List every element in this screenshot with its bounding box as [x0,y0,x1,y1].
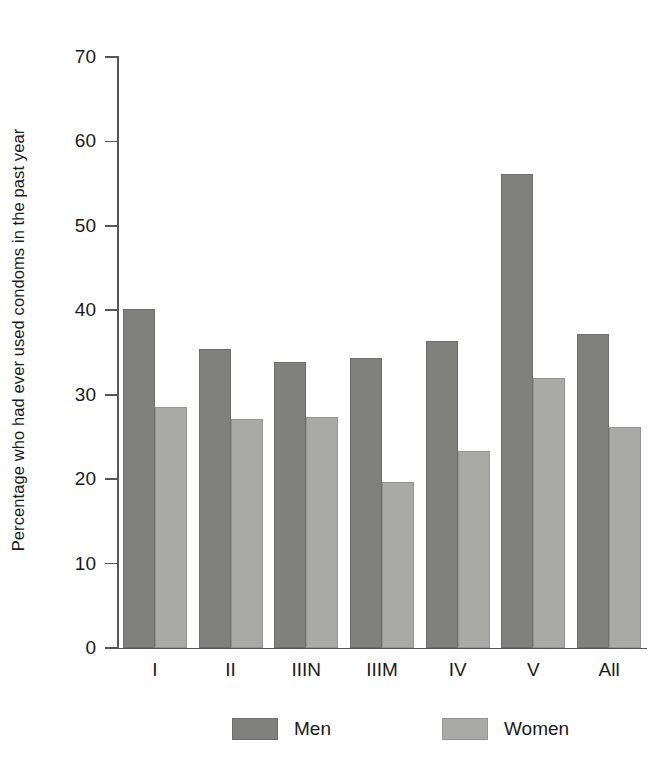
chart-legend: Men Women [0,718,664,748]
legend-label-women: Women [504,718,569,740]
bar-men-i [123,309,155,648]
bar-women-ii [231,419,263,648]
bar-men-all [577,334,609,648]
bar-women-all [609,427,641,648]
x-category-label: IIIM [366,659,398,681]
bar-women-iiim [382,482,414,648]
legend-label-men: Men [294,718,331,740]
y-tick-mark [105,478,117,480]
y-tick-label: 10 [0,553,96,575]
bar-men-v [501,174,533,648]
y-tick-mark [105,563,117,565]
x-category-label: All [599,659,620,681]
bar-women-v [533,378,565,648]
x-category-label: II [225,659,236,681]
bar-chart: Percentage who had ever used condoms in … [0,0,664,784]
bar-women-i [155,407,187,648]
x-category-label: IIIN [292,659,322,681]
legend-item-men: Men [232,718,331,740]
x-category-label: I [152,659,157,681]
y-tick-mark [105,141,117,143]
y-tick-label: 60 [0,130,96,152]
bar-women-iiin [306,417,338,648]
y-tick-mark [105,647,117,649]
bar-men-iv [426,341,458,648]
y-tick-mark [105,309,117,311]
y-tick-label: 50 [0,215,96,237]
bar-men-iiin [274,362,306,648]
y-tick-label: 0 [0,637,96,659]
y-tick-label: 30 [0,384,96,406]
bar-women-iv [458,451,490,648]
legend-swatch-women-icon [442,718,488,740]
y-tick-mark [105,394,117,396]
x-category-label: V [527,659,540,681]
y-tick-label: 70 [0,46,96,68]
y-tick-mark [105,225,117,227]
legend-swatch-men-icon [232,718,278,740]
x-category-label: IV [449,659,467,681]
legend-item-women: Women [442,718,569,740]
bar-men-ii [199,349,231,648]
y-tick-mark [105,56,117,58]
y-tick-label: 20 [0,468,96,490]
bar-men-iiim [350,358,382,648]
y-tick-label: 40 [0,299,96,321]
y-axis-line [117,56,119,649]
